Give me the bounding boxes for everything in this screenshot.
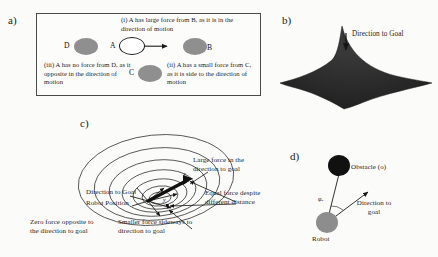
robot-circle [316,212,338,233]
panel-b-annotation: Direction to Goal [352,30,408,40]
panel-c-smaller-force-label: Smaller force sideways to direction to g… [118,218,194,236]
point-label-y: y [162,197,166,203]
panel-a-caption-iii: (iii) A has no force from D, as it oppos… [44,61,136,87]
node-circle-b [183,38,207,55]
motion-arrow-a-to-b [143,40,177,54]
panel-c-robot-position-label: Robot Position [86,199,156,208]
figure-canvas: a) (i) A has large force from B, as it i… [0,0,438,257]
node-circle-d [74,38,98,55]
node-label-c: C [129,68,134,77]
panel-a-box: (i) A has large force from B, as it is i… [36,13,261,96]
node-circle-c [138,65,162,82]
panel-d-label: d) [290,150,299,162]
panel-d-goal-label: Direction to goal [354,199,394,217]
node-label-d: D [64,41,69,50]
panel-c-direction-to-goal-label: Direction to Goal [86,188,158,197]
node-label-a: A [110,41,115,50]
point-label-x: x [182,171,186,177]
panel-a-label: a) [8,14,17,26]
angle-phi-o-label: φₒ [318,195,323,202]
panel-c-equal-force-label: Equal force despite different distance [205,189,267,207]
robot-label: Robot [312,235,352,244]
panel-a-caption-i: (i) A has large force from B, as it is i… [121,16,257,33]
panel-a-caption-ii: (ii) A has a small force from C, as it i… [167,61,257,87]
node-circle-a [119,37,145,55]
panel-c-large-force-label: Large force in the direction to goal [193,156,265,174]
node-label-b: B [207,43,212,52]
obstacle-label: Obstacle (o) [351,163,409,172]
panel-c-zero-force-label: Zero force opposite to the direction to … [30,218,104,236]
obstacle-circle [328,155,350,176]
